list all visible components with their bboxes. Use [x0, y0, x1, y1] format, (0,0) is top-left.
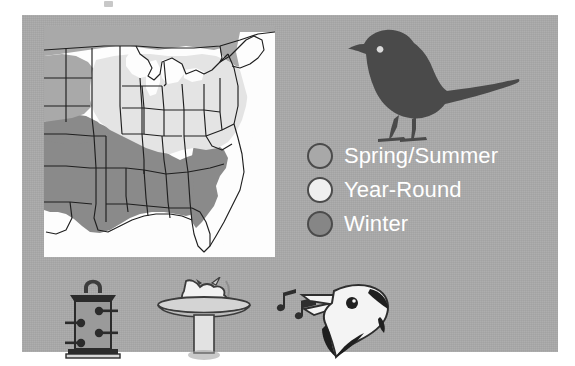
legend-label-spring-summer: Spring/Summer — [344, 145, 498, 167]
tube-bird-feeder-icon — [54, 271, 140, 363]
feeder-port-3 — [95, 329, 103, 337]
legend-swatch-winter — [307, 211, 333, 237]
feeder-hanger — [84, 280, 102, 293]
feeder-perch-1 — [102, 310, 118, 313]
feeder-base-plate — [66, 354, 120, 358]
legend-swatch-year-round — [307, 177, 333, 203]
bird-head — [302, 285, 388, 357]
water-splash — [212, 277, 220, 285]
feeder-perch-3 — [102, 332, 118, 335]
feeder-perch-2 — [65, 322, 79, 325]
bath-pedestal — [194, 315, 214, 353]
eye — [346, 297, 358, 309]
junco-silhouette-icon — [342, 27, 532, 145]
eye-highlight — [352, 299, 356, 303]
music-notes — [277, 289, 316, 319]
infographic-panel: Spring/Summer Year-Round Winter — [22, 15, 558, 352]
feeder-base-tray — [68, 349, 118, 354]
legend-label-winter: Winter — [344, 213, 408, 235]
scan-artifact — [104, 1, 113, 7]
range-legend: Spring/Summer Year-Round Winter — [307, 139, 557, 241]
feeder-perch-4 — [65, 342, 79, 345]
legend-item-spring-summer[interactable]: Spring/Summer — [307, 139, 557, 173]
legend-swatch-spring-summer — [307, 143, 333, 169]
bath-shadow — [188, 350, 220, 360]
singing-bird-head-icon — [274, 277, 400, 365]
range-map — [44, 26, 275, 257]
legend-item-winter[interactable]: Winter — [307, 207, 557, 241]
bird-bath-icon — [150, 277, 258, 361]
bird-body-shape — [348, 30, 519, 142]
legend-item-year-round[interactable]: Year-Round — [307, 173, 557, 207]
legend-label-year-round: Year-Round — [344, 179, 462, 201]
feeder-port-1 — [95, 307, 103, 315]
